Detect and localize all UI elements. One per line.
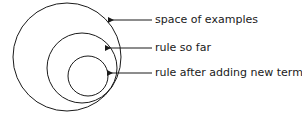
inner-circle-rule-after-new-term	[68, 56, 108, 96]
label-rule-so-far: rule so far	[155, 42, 211, 53]
label-rule-after-adding-new-term: rule after adding new term	[155, 67, 302, 78]
label-space-of-examples: space of examples	[155, 14, 258, 25]
